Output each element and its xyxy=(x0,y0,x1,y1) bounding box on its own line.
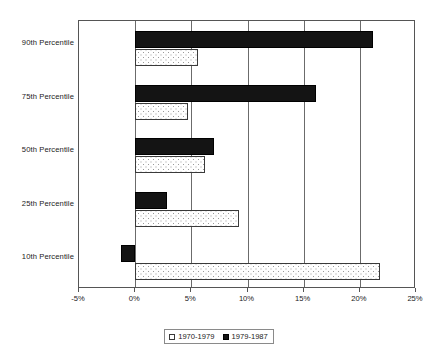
filled-square-swatch xyxy=(223,334,229,340)
y-axis-labels: 90th Percentile75th Percentile50th Perce… xyxy=(0,20,74,288)
y-axis-label-10th-percentile: 10th Percentile xyxy=(0,252,74,261)
legend-label: 1979-1987 xyxy=(232,332,268,341)
bar-1970-1979-90th-percentile xyxy=(135,49,198,66)
bar-1970-1979-50th-percentile xyxy=(135,156,205,173)
legend-box: 1970-19791979-1987 xyxy=(164,329,274,344)
bar-1979-1987-10th-percentile xyxy=(121,245,136,262)
x-tick-label-0%: 0% xyxy=(129,294,140,303)
bar-1970-1979-75th-percentile xyxy=(135,103,188,120)
bar-1970-1979-25th-percentile xyxy=(135,210,238,227)
x-tick-label-5%: 5% xyxy=(185,294,196,303)
y-axis-label-50th-percentile: 50th Percentile xyxy=(0,145,74,154)
x-tick-mark-25% xyxy=(415,288,416,292)
bar-chart: 90th Percentile75th Percentile50th Perce… xyxy=(0,0,438,355)
legend-entry-1979-1987: 1979-1987 xyxy=(223,332,268,341)
x-tick-mark-0% xyxy=(134,288,135,292)
bar-1970-1979-10th-percentile xyxy=(135,263,380,280)
x-tick-label-15%: 15% xyxy=(295,294,310,303)
bar-group xyxy=(79,128,414,182)
x-tick-mark--5% xyxy=(78,288,79,292)
x-tick-label--5%: -5% xyxy=(71,294,85,303)
bar-1979-1987-50th-percentile xyxy=(135,138,214,155)
x-tick-label-20%: 20% xyxy=(351,294,366,303)
x-tick-mark-15% xyxy=(303,288,304,292)
x-tick-label-10%: 10% xyxy=(239,294,254,303)
x-tick-label-25%: 25% xyxy=(407,294,422,303)
legend-label: 1970-1979 xyxy=(178,332,214,341)
bar-group xyxy=(79,21,414,75)
x-tick-mark-5% xyxy=(190,288,191,292)
bar-group xyxy=(79,182,414,236)
y-axis-label-90th-percentile: 90th Percentile xyxy=(0,38,74,47)
plot-area xyxy=(78,20,415,288)
y-axis-label-75th-percentile: 75th Percentile xyxy=(0,92,74,101)
bar-1979-1987-75th-percentile xyxy=(135,85,316,102)
bar-group xyxy=(79,235,414,289)
chart-legend: 1970-19791979-1987 xyxy=(0,329,438,344)
bar-1979-1987-25th-percentile xyxy=(135,192,166,209)
legend-entry-1970-1979: 1970-1979 xyxy=(169,332,214,341)
x-tick-mark-20% xyxy=(359,288,360,292)
x-tick-mark-10% xyxy=(247,288,248,292)
bar-1979-1987-90th-percentile xyxy=(135,31,373,48)
y-axis-label-25th-percentile: 25th Percentile xyxy=(0,199,74,208)
x-axis: -5%0%5%10%15%20%25% xyxy=(78,288,415,310)
open-square-swatch xyxy=(169,334,175,340)
bar-group xyxy=(79,75,414,129)
